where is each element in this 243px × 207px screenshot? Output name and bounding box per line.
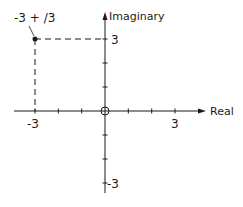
x-tick-label-pos: 3 bbox=[171, 117, 179, 131]
imaginary-axis-arrow-icon bbox=[103, 12, 108, 20]
point-leader-line bbox=[29, 26, 34, 36]
point-label: -3 + /3 bbox=[14, 11, 55, 25]
real-axis-arrow-icon bbox=[198, 109, 206, 114]
y-tick-label-neg: -3 bbox=[107, 177, 119, 191]
y-tick-label-pos: 3 bbox=[111, 33, 119, 47]
complex-point-marker bbox=[33, 37, 38, 42]
complex-plane-diagram: -3 + /3 Imaginary Real 3 -3 -3 3 bbox=[0, 0, 243, 207]
real-axis-label: Real bbox=[210, 105, 234, 118]
imaginary-axis-label: Imaginary bbox=[109, 10, 165, 23]
x-tick-label-neg: -3 bbox=[27, 117, 39, 131]
